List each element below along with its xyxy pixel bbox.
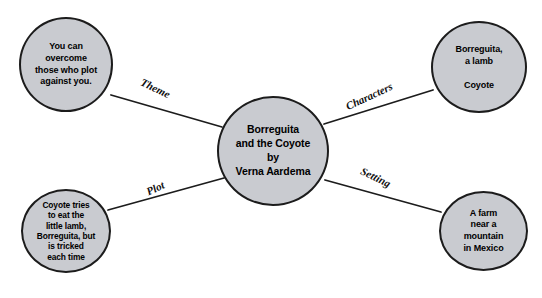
edge-line-plot — [108, 178, 224, 210]
node-characters[interactable]: Borreguita, a lamb Coyote — [431, 21, 527, 113]
concept-web-diagram: Borreguita and the Coyote by Verna Aarde… — [0, 0, 542, 298]
node-center-topic[interactable]: Borreguita and the Coyote by Verna Aarde… — [217, 96, 329, 206]
node-setting-text: A farm near a mountain in Mexico — [441, 208, 526, 255]
node-theme-text: You can overcome those who plot against … — [21, 41, 111, 87]
node-plot[interactable]: Coyote tries to eat the little lamb, Bor… — [21, 189, 111, 273]
node-plot-text: Coyote tries to eat the little lamb, Bor… — [23, 200, 109, 263]
node-characters-text: Borreguita, a lamb Coyote — [433, 43, 525, 92]
node-setting[interactable]: A farm near a mountain in Mexico — [439, 191, 528, 271]
node-center-topic-text: Borreguita and the Coyote by Verna Aarde… — [219, 123, 327, 178]
node-theme[interactable]: You can overcome those who plot against … — [19, 17, 113, 112]
